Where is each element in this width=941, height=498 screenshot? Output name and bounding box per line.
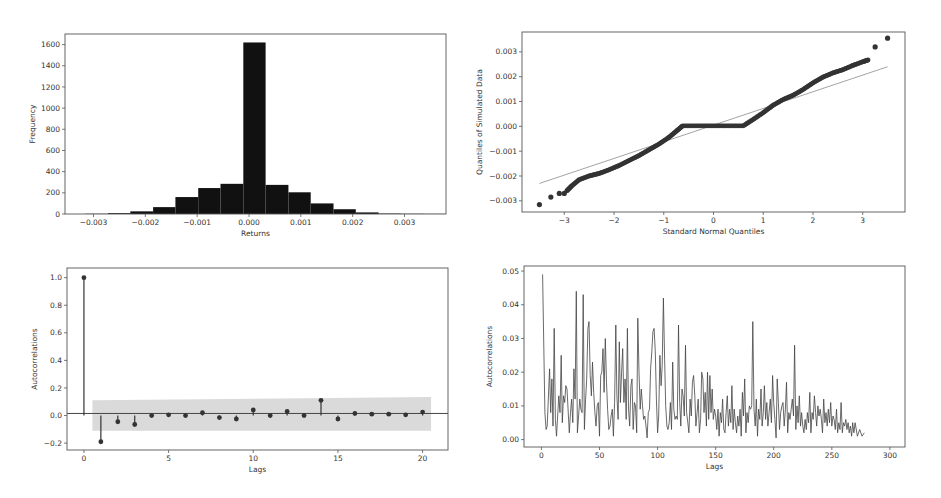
x-tick-label: −0.002 — [131, 218, 159, 227]
histogram-bar — [175, 197, 198, 214]
histogram-bar — [221, 184, 244, 214]
y-tick-label: −0.001 — [489, 147, 517, 156]
qq-point — [537, 202, 542, 207]
stem-marker — [352, 411, 357, 416]
stem-marker — [200, 410, 205, 415]
y-tick-label: 0.003 — [496, 47, 518, 56]
x-tick-label: 0.002 — [342, 218, 364, 227]
plot-area — [85, 42, 446, 214]
axes-frame — [522, 32, 905, 212]
y-tick-label: 0.02 — [502, 368, 519, 377]
x-axis-label: Returns — [241, 229, 270, 238]
qq-point — [557, 191, 562, 196]
y-tick-label: 0.4 — [50, 356, 62, 365]
acf-line-series — [543, 274, 865, 438]
x-tick-label: 1 — [761, 216, 766, 225]
y-tick-label: 0.00 — [502, 435, 519, 444]
acf-stem-panel: 05101520−0.20.00.20.40.60.81.0LagsAutoco… — [30, 268, 448, 474]
stem-marker — [319, 398, 324, 403]
x-tick-label: −3 — [559, 216, 570, 225]
stem-marker — [98, 439, 103, 444]
x-tick-label: −2 — [608, 216, 619, 225]
x-tick-label: 0.001 — [290, 218, 312, 227]
figure: −0.003−0.002−0.0010.0000.0010.0020.00302… — [0, 0, 941, 498]
histogram-bar — [153, 207, 175, 214]
y-tick-label: −0.2 — [44, 439, 62, 448]
y-tick-label: 1600 — [41, 40, 60, 49]
plot-area — [543, 274, 865, 438]
qq-point — [548, 195, 553, 200]
x-tick-label: 0 — [539, 451, 544, 460]
y-tick-label: 1400 — [41, 61, 60, 70]
y-tick-label: 0.05 — [502, 267, 519, 276]
y-tick-label: −0.002 — [489, 172, 517, 181]
y-tick-label: 0.002 — [496, 72, 518, 81]
stem-marker — [217, 415, 222, 420]
y-tick-label: 600 — [46, 146, 61, 155]
y-tick-label: 0.04 — [502, 300, 519, 309]
x-tick-label: 0 — [82, 454, 87, 463]
y-tick-label: 0.0 — [50, 411, 62, 420]
y-axis-label: Frequency — [28, 104, 37, 143]
y-axis-label: Quantiles of Simulated Data — [475, 69, 484, 175]
stem-marker — [82, 275, 87, 280]
histogram-bar — [334, 209, 356, 214]
y-tick-label: 400 — [46, 167, 61, 176]
axes-frame — [524, 266, 905, 447]
acf-line-panel: 0501001502002503000.000.010.020.030.040.… — [485, 266, 905, 471]
stem-marker — [336, 417, 341, 422]
x-tick-label: −0.003 — [80, 218, 108, 227]
stem-marker — [149, 413, 154, 418]
x-tick-label: 300 — [883, 451, 898, 460]
y-tick-label: 0.03 — [502, 334, 519, 343]
x-tick-label: 0.000 — [238, 218, 260, 227]
x-tick-label: 200 — [767, 451, 782, 460]
x-tick-label: 50 — [595, 451, 605, 460]
qq-point — [873, 44, 878, 49]
qq-point — [866, 58, 871, 63]
stem-marker — [302, 413, 307, 418]
histogram-bar — [266, 185, 289, 214]
stem-marker — [369, 412, 374, 417]
y-tick-label: 0.01 — [502, 401, 519, 410]
y-tick-label: 0.000 — [496, 122, 518, 131]
y-tick-label: 1200 — [41, 83, 60, 92]
stem-marker — [251, 408, 256, 413]
y-tick-label: 800 — [46, 125, 61, 134]
stem-marker — [420, 410, 425, 415]
plot-area — [537, 36, 890, 208]
x-tick-label: 15 — [333, 454, 343, 463]
x-tick-label: 250 — [825, 451, 840, 460]
stem-marker — [285, 409, 290, 414]
y-axis-label: Autocorrelations — [485, 326, 494, 388]
x-axis-label: Lags — [706, 462, 724, 471]
x-tick-label: 10 — [248, 454, 258, 463]
x-tick-label: 2 — [811, 216, 816, 225]
y-tick-label: 0 — [55, 210, 60, 219]
qq-plot-panel: −3−2−10123−0.003−0.002−0.0010.0000.0010.… — [475, 32, 905, 236]
stem-marker — [166, 412, 171, 417]
y-tick-label: 200 — [46, 188, 61, 197]
stem-marker — [403, 412, 408, 417]
x-tick-label: −0.001 — [183, 218, 211, 227]
y-tick-label: 0.6 — [50, 328, 62, 337]
y-tick-label: 1.0 — [50, 273, 62, 282]
plot-area — [67, 275, 448, 444]
x-axis-label: Standard Normal Quantiles — [663, 227, 765, 236]
stem-marker — [183, 413, 188, 418]
histogram-bar — [288, 192, 310, 214]
stem-marker — [234, 417, 239, 422]
qq-point — [885, 36, 890, 41]
stem-marker — [386, 412, 391, 417]
histogram-bar — [311, 203, 334, 214]
x-tick-label: 5 — [166, 454, 171, 463]
y-tick-label: 0.2 — [50, 384, 62, 393]
x-axis-label: Lags — [249, 465, 267, 474]
stem-marker — [268, 413, 273, 418]
histogram-bar — [243, 42, 265, 214]
x-tick-label: 0.003 — [394, 218, 416, 227]
histogram-panel: −0.003−0.002−0.0010.0000.0010.0020.00302… — [28, 34, 446, 238]
histogram-bar — [198, 188, 220, 214]
y-tick-label: 0.001 — [496, 97, 518, 106]
x-tick-label: 3 — [860, 216, 865, 225]
